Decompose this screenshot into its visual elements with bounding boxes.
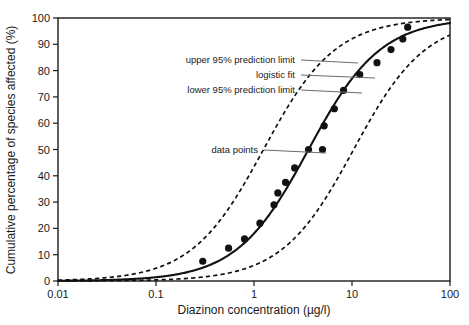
data-point-marker — [256, 220, 263, 227]
y-tick-label: 90 — [38, 38, 50, 50]
data-point-marker — [291, 164, 298, 171]
x-tick-label: 1 — [251, 288, 257, 300]
figure-background — [0, 0, 469, 325]
data-point-marker — [274, 189, 281, 196]
data-point-marker — [199, 258, 206, 265]
y-tick-label: 20 — [38, 222, 50, 234]
x-tick-label: 10 — [346, 288, 358, 300]
y-tick-label: 30 — [38, 196, 50, 208]
chart-annotation-label: logistic fit — [256, 69, 295, 80]
chart-annotation-label: lower 95% prediction limit — [187, 84, 295, 95]
chart-annotation-label: upper 95% prediction limit — [186, 54, 296, 65]
data-point-marker — [331, 105, 338, 112]
y-tick-label: 10 — [38, 249, 50, 261]
data-point-marker — [225, 245, 232, 252]
data-point-marker — [387, 46, 394, 53]
data-point-marker — [399, 35, 406, 42]
y-axis-title: Cumulative percentage of species affecte… — [4, 26, 18, 275]
x-tick-label: 0.01 — [47, 288, 68, 300]
data-point-marker — [321, 122, 328, 129]
y-tick-label: 100 — [32, 12, 50, 24]
data-point-marker — [319, 146, 326, 153]
ssd-chart-figure: 0102030405060708090100 0.010.1110100 upp… — [0, 0, 469, 325]
y-tick-label: 80 — [38, 65, 50, 77]
y-tick-label: 60 — [38, 117, 50, 129]
data-point-marker — [404, 24, 411, 31]
chart-annotation-label: data points — [212, 144, 259, 155]
x-tick-label: 100 — [441, 288, 459, 300]
data-point-marker — [282, 179, 289, 186]
data-point-marker — [340, 87, 347, 94]
data-point-marker — [373, 59, 380, 66]
y-tick-label: 0 — [44, 275, 50, 287]
chart-canvas: 0102030405060708090100 0.010.1110100 upp… — [0, 0, 469, 325]
x-tick-label: 0.1 — [148, 288, 163, 300]
y-tick-label: 40 — [38, 170, 50, 182]
x-axis-title: Diazinon concentration (µg/l) — [178, 303, 331, 317]
y-tick-label: 50 — [38, 144, 50, 156]
data-point-marker — [270, 201, 277, 208]
y-tick-label: 70 — [38, 91, 50, 103]
data-point-marker — [241, 235, 248, 242]
